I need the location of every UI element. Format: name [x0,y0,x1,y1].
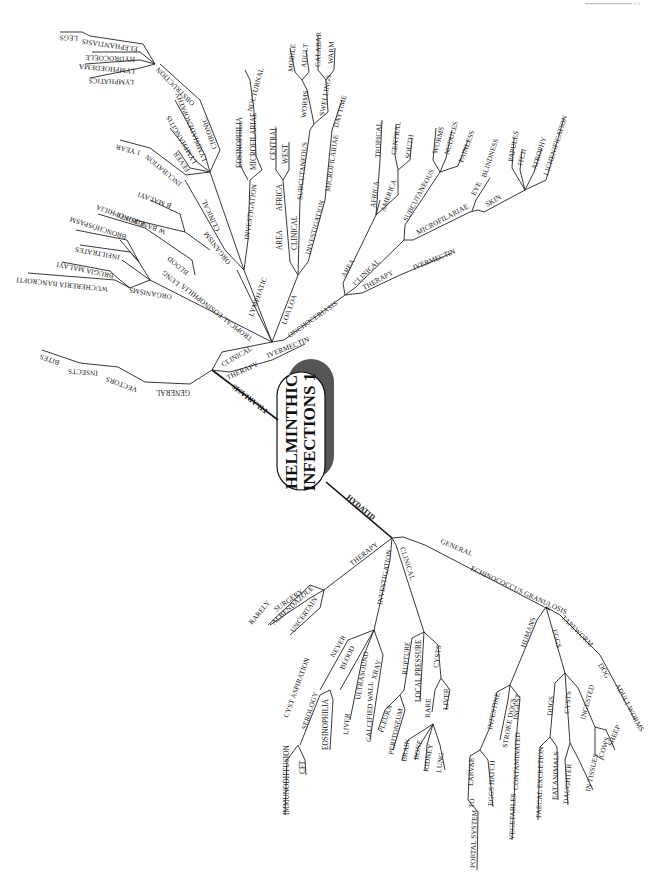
label-insects: INSECTS [68,367,98,377]
label-brain: BRAIN [400,738,412,763]
label-xray: XRAY [370,658,383,680]
label-vegetables: VEGETABLES [508,793,518,840]
page-number: ━━━━━━━━━━━ ≡≡ [584,0,641,8]
label-ingested: INGESTED [579,684,596,721]
label-eggs: EGGS [550,628,563,649]
label-tapeworm: TAPEWORM [560,614,595,649]
label-b-malayi: B MALAYI [136,190,173,210]
label-oncho-area: AREA [340,257,357,279]
label-loa-loa: LOA LOA [280,293,299,326]
label-oncho-central: CENTRAL [390,121,403,156]
label-tropical: TROPICAL [374,122,383,158]
central-node: HELMINTHIC INFECTIONS 1 [277,359,334,491]
label-faecal-excretion: FAECAL EXCRETION [535,746,546,818]
label-lymphoedema: LYMPHOEDEMA [78,62,135,75]
label-ivermectin: IVERMECTIN [266,335,312,360]
label-hydatid-therapy: THERAPY [348,540,380,568]
label-elephantiasis: ELEPHANTIASIS [81,37,138,53]
label-loa-microfilariae: MICROFILARIAE [324,134,340,193]
label-hydatid-clinical: CLINICAL [398,546,416,581]
label-nodules: NODULES [443,120,460,155]
label-dog: DOG [596,662,611,680]
label-filariasis: FILARIASIS [230,382,269,416]
label-loa-central: CENTRAL [270,126,278,160]
label-tropical-eosinophilia: TROPICAL EOSINOPHILIA [179,281,254,342]
label-lichenification: LICHENIFICATION [542,114,569,177]
label-hydatid-cysts: CYSTS [432,645,443,669]
label-lymphatic-investigation: INVESTIGATION [243,183,259,240]
label-serology: SEROLOGY [300,690,320,730]
label-itch: ITCH [516,148,528,167]
label-blindness: BLINDNESS [480,138,500,179]
label-immunodiffusion: IMMUNODIFFUSION [283,745,291,815]
label-clinical-lung: LUNG [435,752,446,773]
label-eye: EYE [470,180,484,197]
label-america: AMERICA [379,177,398,212]
label-general: GENERAL [156,388,190,396]
label-investigation-liver: LIVER [342,713,352,735]
mind-map: ━━━━━━━━━━━ ≡≡ HELMINTHIC INFECTIONS 1 F… [0,0,661,895]
label-calcified-wall: CALCIFIED WALL [365,681,375,742]
label-swellings: SWELLINGS [318,74,333,116]
label-legs: LEGS [59,33,78,42]
label-loa-west: WEST [282,144,290,164]
label-loa-worms: WORMS [300,90,310,118]
label-warm: WARM [327,41,336,65]
central-title-line1: HELMINTHIC [282,375,301,489]
label-lymphatic-clinical: CLINICAL [200,198,222,233]
label-loa-subcutaneous: SUBCUTANEOUS [296,142,309,201]
label-clinical-liver: LIVER [442,688,451,710]
label-loa-africa: AFRICA [276,183,284,211]
label-hydrocoele: HYDROCOELE [85,53,135,63]
label-lymphatics: LYMPHATICS [88,76,134,86]
label-eosinophilia-lymphatic: EOSINOPHILIA [236,116,244,168]
label-contaminated: CONTAMINATED [512,732,522,790]
label-dogs: DOGS [546,696,556,717]
label-hydatid-investigation: INVESTIGATION [376,548,394,605]
label-eggs-cysts: CYSTS [563,691,573,714]
label-lymphatic: LYMPHATIC [247,276,269,318]
label-loa-investigation: INVESTIGATION [304,199,326,256]
branch-hydatid: HYDATID THERAPY SURGERY RARELY ALBENDAZO… [247,482,645,870]
label-in-tissues: IN TISSUES [584,753,600,792]
label-loa-clinical: CLINICAL [291,216,299,250]
label-echinococcus-granulosis: ECHINOCOCCUS GRANULOSIS [469,565,568,617]
label-humans: HUMANS [519,616,537,649]
label-rarely: RARELY [247,599,272,627]
label-eggs-hatch: EGGS HATCH [487,760,497,806]
branch-filariasis: FILARIASIS GENERAL VECTORS INSECTS BITES… [15,32,569,420]
label-oncho-ivermectin: IVERMECTIN [412,247,458,272]
label-intestine: INTESTINE [486,691,502,730]
label-hydatid-eosinophilia: EOSINOPHILIA [322,698,330,750]
label-rupture: RUPTURE [401,641,412,676]
label-nocturnal: NOCTURNAL [246,67,265,113]
label-larvae: LARVAE [467,757,476,786]
label-daughter: DAUGHTER [562,763,573,804]
label-hydatid: HYDATID [345,493,378,523]
label-south: SOUTH [404,134,415,159]
label-adult: ADULT [300,43,310,68]
label-daytime: DAYTIME [332,94,348,129]
label-bone: BONE [412,739,424,761]
label-kidney: KIDNEY [422,743,435,773]
label-eat-animals: EAT ANIMALS [551,752,561,801]
label-rare: RARE [424,698,433,718]
label-oncho-microfilariae: MICROFILARIAE [415,202,470,236]
label-vectors: VECTORS [105,375,139,394]
label-loa-area: AREA [276,229,284,250]
label-oncho-subcutaneous: SUBCUTANEOUS [402,168,436,223]
central-title-line2: INFECTIONS 1 [300,373,319,492]
label-mobile: MOBILE [287,43,297,72]
label-microfilariae-lymphatic: MICROFILARIAE [250,112,258,170]
label-cft: CFT [299,760,307,774]
label-local-pressure: LOCAL PRESSURE [415,639,423,702]
label-calabar: CALABAR [314,32,323,67]
label-to: TO [468,798,476,808]
label-painless: PAINLESS [457,129,476,163]
label-bites: BITES [39,352,61,367]
label-ingest: INGEST [512,693,522,720]
